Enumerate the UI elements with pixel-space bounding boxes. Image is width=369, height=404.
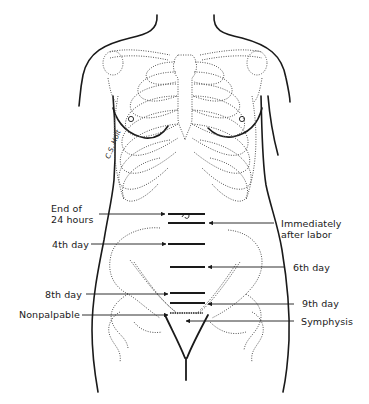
label-4th-day: 4th day [52,239,89,250]
label-line: Immediately [281,218,342,229]
label-line: 6th day [293,262,330,273]
label-line: 24 hours [51,214,94,225]
label-line: after labor [281,229,342,240]
label-end-24-hours: End of 24 hours [51,203,94,225]
label-line: End of [51,203,94,214]
label-nonpalpable: Nonpalpable [19,309,80,320]
label-line: Nonpalpable [19,309,80,320]
nipple-marks [128,116,244,121]
label-line: 9th day [302,298,339,309]
anatomy-diagram [0,0,369,404]
label-6th-day: 6th day [293,262,330,273]
label-line: Symphysis [301,316,353,327]
label-symphysis: Symphysis [301,316,353,327]
fundal-height-bars [168,214,205,313]
label-immediately-after-labor: Immediately after labor [281,218,342,240]
body-outline [79,15,290,392]
label-line: 4th day [52,239,89,250]
label-8th-day: 8th day [45,289,82,300]
label-9th-day: 9th day [302,298,339,309]
label-line: 8th day [45,289,82,300]
